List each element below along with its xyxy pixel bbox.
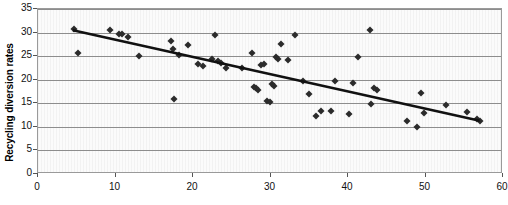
- x-tick-label: 20: [177, 181, 207, 192]
- x-tick-mark: [192, 173, 193, 177]
- x-tick-mark: [115, 173, 116, 177]
- x-tick-mark: [502, 173, 503, 177]
- x-tick-label: 60: [487, 181, 508, 192]
- x-tick-mark: [37, 173, 38, 177]
- x-tick-mark: [347, 173, 348, 177]
- x-tick-label: 0: [22, 181, 52, 192]
- x-tick-mark: [425, 173, 426, 177]
- trend-line: [38, 9, 502, 173]
- scatter-chart: Recycling diversion rates 05101520253035…: [0, 0, 508, 205]
- y-tick-mark: [33, 173, 37, 174]
- y-axis-title: Recycling diversion rates: [0, 0, 18, 205]
- x-tick-mark: [270, 173, 271, 177]
- x-tick-label: 40: [332, 181, 362, 192]
- x-tick-label: 10: [100, 181, 130, 192]
- x-tick-label: 50: [410, 181, 440, 192]
- plot-area: [37, 8, 502, 173]
- x-tick-label: 30: [255, 181, 285, 192]
